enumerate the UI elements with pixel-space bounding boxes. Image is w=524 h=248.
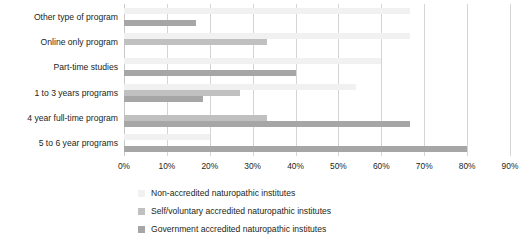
bar [124,121,410,127]
bar [124,146,467,152]
bar [124,39,267,45]
bar [124,58,381,64]
bar-track [124,20,510,26]
x-tick-label: 20% [201,160,218,172]
bar-group [124,55,510,80]
category-axis: Other type of programOnline only program… [0,4,118,156]
legend-item: Self/voluntary accredited naturopathic i… [138,202,478,220]
x-axis-tick-labels: 0%10%20%30%40%50%60%70%80%90% [124,160,510,174]
category-label: 5 to 6 year programs [0,138,118,148]
x-tick-label: 50% [330,160,347,172]
legend-swatch-non-accredited [138,190,145,197]
x-tick-label: 10% [158,160,175,172]
bar-track [124,96,510,102]
x-tick-label: 30% [244,160,261,172]
legend-item: Non-accredited naturopathic institutes [138,184,478,202]
bar-group [124,80,510,105]
category-label: Online only program [0,37,118,47]
bar-group [124,29,510,54]
category-label: Part-time studies [0,62,118,72]
x-tick-label: 40% [287,160,304,172]
category-label: 1 to 3 years programs [0,88,118,98]
legend-swatch-government [138,226,145,233]
bar [124,70,296,76]
category-label: 4 year full-time program [0,113,118,123]
bar-track [124,121,510,127]
bar-track [124,146,510,152]
chart-legend: Non-accredited naturopathic institutesSe… [138,184,478,238]
category-label: Other type of program [0,12,118,22]
plot-area [124,4,510,156]
legend-swatch-self-voluntary [138,208,145,215]
bar-track [124,134,510,140]
x-tick-label: 60% [373,160,390,172]
legend-label: Government accredited naturopathic insti… [151,224,326,234]
x-tick-label: 90% [502,160,519,172]
bar-track [124,70,510,76]
bar-track [124,58,510,64]
bar [124,96,203,102]
x-tick-label: 70% [416,160,433,172]
bar-group [124,105,510,130]
gridline-90pct [510,4,511,156]
legend-label: Non-accredited naturopathic institutes [151,188,295,198]
bar [124,134,210,140]
bar-group [124,131,510,156]
bar-track [124,8,510,14]
bar-track [124,39,510,45]
legend-label: Self/voluntary accredited naturopathic i… [151,206,331,216]
bar-group [124,4,510,29]
bar [124,20,196,26]
bar [124,8,410,14]
bar-chart: Other type of programOnline only program… [0,0,524,248]
legend-item: Government accredited naturopathic insti… [138,220,478,238]
x-tick-label: 0% [118,160,130,172]
bar-rows [124,4,510,156]
x-tick-label: 80% [459,160,476,172]
